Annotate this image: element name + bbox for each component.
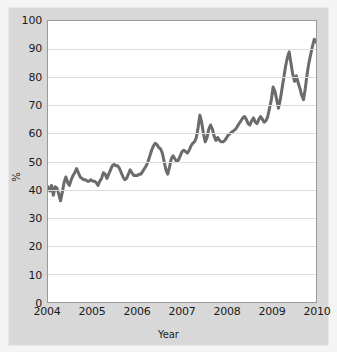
x-tick-label: 2010 — [303, 305, 330, 318]
gridline — [48, 274, 316, 275]
gridline — [48, 105, 316, 106]
y-tick-label: 90 — [28, 42, 42, 55]
y-tick-label: 10 — [28, 268, 42, 281]
x-tick-label: 2009 — [258, 305, 285, 318]
y-tick-label: 100 — [22, 14, 42, 27]
y-tick-label: 20 — [28, 240, 42, 253]
gridline — [48, 133, 316, 134]
plot-wrapper — [47, 20, 317, 303]
y-tick-label: 30 — [28, 212, 42, 225]
gridline — [48, 218, 316, 219]
x-tick-label: 2007 — [168, 305, 195, 318]
chart-figure: 0102030405060708090100 20042005200620072… — [0, 0, 337, 352]
gridline — [48, 162, 316, 163]
y-tick-label: 70 — [28, 98, 42, 111]
x-tick-label: 2005 — [78, 305, 105, 318]
gridline — [48, 246, 316, 247]
chart-panel: 0102030405060708090100 20042005200620072… — [8, 7, 329, 346]
y-tick-label: 80 — [28, 70, 42, 83]
y-tick-label: 60 — [28, 127, 42, 140]
y-axis-tick-labels: 0102030405060708090100 — [9, 20, 47, 303]
x-tick-label: 2006 — [123, 305, 150, 318]
y-tick-label: 40 — [28, 183, 42, 196]
gridline — [48, 77, 316, 78]
x-tick-label: 2004 — [33, 305, 60, 318]
gridline — [48, 190, 316, 191]
gridline — [48, 49, 316, 50]
y-axis-title: % — [11, 172, 22, 182]
x-tick-label: 2008 — [213, 305, 240, 318]
y-tick-label: 50 — [28, 155, 42, 168]
x-axis-tick-labels: 2004200520062007200820092010 — [47, 303, 317, 321]
plot-area — [47, 20, 317, 303]
x-axis-title: Year — [9, 329, 328, 340]
